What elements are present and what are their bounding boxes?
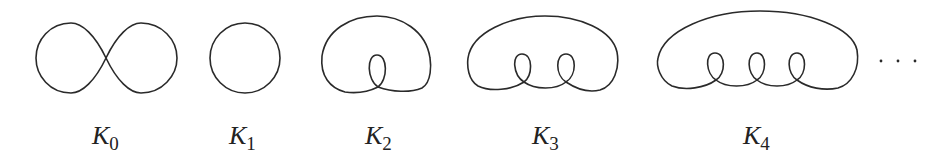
ellipsis-dots bbox=[880, 60, 917, 63]
label-k3: K3 bbox=[532, 123, 559, 153]
label-k0: K0 bbox=[92, 123, 119, 153]
knot-k1 bbox=[210, 23, 280, 93]
knot-k4 bbox=[658, 11, 858, 89]
label-k4: K4 bbox=[743, 123, 770, 153]
label-k1: K1 bbox=[229, 123, 256, 153]
knot-k0 bbox=[36, 23, 177, 93]
knot-sequence-figure bbox=[0, 0, 936, 163]
knot-k2 bbox=[322, 16, 431, 93]
label-k2: K2 bbox=[365, 123, 392, 153]
knot-k3 bbox=[468, 16, 618, 91]
